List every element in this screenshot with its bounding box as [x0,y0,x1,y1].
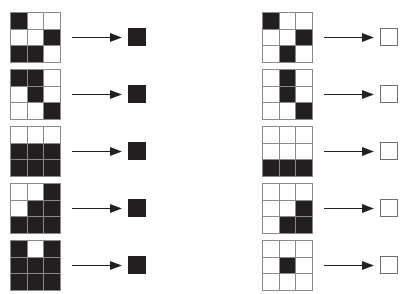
stimulus-grid[interactable] [10,183,61,234]
grid-cell-r3-c1[interactable] [263,217,279,233]
grid-cell-r2-c3[interactable] [44,144,60,160]
grid-cell-r3-c2[interactable] [28,274,44,290]
grid-cell-r1-c2[interactable] [28,127,44,143]
grid-cell-r2-c1[interactable] [263,30,279,46]
grid-cell-r3-c1[interactable] [11,103,27,119]
grid-cell-r1-c2[interactable] [280,127,296,143]
grid-cell-r1-c1[interactable] [11,127,27,143]
grid-cell-r3-c1[interactable] [11,274,27,290]
grid-cell-r1-c3[interactable] [296,127,312,143]
grid-cell-r3-c3[interactable] [44,103,60,119]
result-square-empty[interactable] [380,199,398,217]
grid-cell-r1-c2[interactable] [28,13,44,29]
grid-cell-r1-c3[interactable] [44,70,60,86]
grid-cell-r3-c1[interactable] [263,160,279,176]
grid-cell-r1-c2[interactable] [280,184,296,200]
grid-cell-r2-c1[interactable] [11,30,27,46]
grid-cell-r2-c1[interactable] [11,258,27,274]
grid-cell-r3-c1[interactable] [263,46,279,62]
grid-cell-r2-c2[interactable] [280,87,296,103]
grid-cell-r1-c2[interactable] [280,70,296,86]
grid-cell-r3-c2[interactable] [280,274,296,290]
grid-cell-r2-c1[interactable] [263,87,279,103]
grid-cell-r3-c1[interactable] [11,160,27,176]
grid-cell-r2-c3[interactable] [296,144,312,160]
grid-cell-r1-c2[interactable] [28,241,44,257]
grid-cell-r1-c3[interactable] [44,127,60,143]
stimulus-grid[interactable] [10,126,61,177]
stimulus-grid[interactable] [262,240,313,291]
grid-cell-r2-c2[interactable] [28,201,44,217]
result-square-empty[interactable] [380,28,398,46]
grid-cell-r3-c3[interactable] [44,160,60,176]
grid-cell-r2-c2[interactable] [28,30,44,46]
grid-cell-r1-c3[interactable] [44,13,60,29]
grid-cell-r3-c2[interactable] [28,103,44,119]
grid-cell-r3-c2[interactable] [28,46,44,62]
grid-cell-r3-c2[interactable] [28,217,44,233]
grid-cell-r2-c3[interactable] [296,87,312,103]
stimulus-grid[interactable] [262,69,313,120]
grid-cell-r1-c3[interactable] [296,184,312,200]
grid-cell-r3-c2[interactable] [280,46,296,62]
grid-cell-r2-c3[interactable] [44,87,60,103]
grid-cell-r1-c1[interactable] [11,70,27,86]
grid-cell-r2-c2[interactable] [28,258,44,274]
result-square-empty[interactable] [380,142,398,160]
result-square-empty[interactable] [380,256,398,274]
grid-cell-r2-c1[interactable] [263,144,279,160]
result-square-filled[interactable] [128,256,146,274]
stimulus-grid[interactable] [10,12,61,63]
grid-cell-r1-c2[interactable] [28,70,44,86]
stimulus-grid[interactable] [10,240,61,291]
grid-cell-r1-c1[interactable] [263,184,279,200]
stimulus-grid[interactable] [10,69,61,120]
grid-cell-r2-c3[interactable] [44,201,60,217]
grid-cell-r1-c3[interactable] [296,70,312,86]
grid-cell-r2-c3[interactable] [44,30,60,46]
grid-cell-r2-c2[interactable] [280,201,296,217]
grid-cell-r2-c1[interactable] [263,258,279,274]
grid-cell-r1-c3[interactable] [44,184,60,200]
result-square-filled[interactable] [128,85,146,103]
grid-cell-r3-c3[interactable] [296,46,312,62]
grid-cell-r1-c1[interactable] [263,70,279,86]
grid-cell-r3-c3[interactable] [296,274,312,290]
grid-cell-r1-c3[interactable] [296,241,312,257]
result-square-filled[interactable] [128,28,146,46]
grid-cell-r3-c3[interactable] [296,160,312,176]
stimulus-grid[interactable] [262,183,313,234]
grid-cell-r2-c1[interactable] [263,201,279,217]
grid-cell-r3-c3[interactable] [44,46,60,62]
grid-cell-r3-c3[interactable] [296,103,312,119]
grid-cell-r3-c1[interactable] [11,46,27,62]
grid-cell-r1-c1[interactable] [263,127,279,143]
grid-cell-r2-c3[interactable] [296,258,312,274]
result-square-filled[interactable] [128,142,146,160]
grid-cell-r2-c3[interactable] [44,258,60,274]
grid-cell-r2-c1[interactable] [11,201,27,217]
grid-cell-r1-c3[interactable] [44,241,60,257]
grid-cell-r2-c3[interactable] [296,30,312,46]
grid-cell-r3-c1[interactable] [263,274,279,290]
result-square-empty[interactable] [380,85,398,103]
grid-cell-r3-c2[interactable] [280,103,296,119]
grid-cell-r2-c3[interactable] [296,201,312,217]
grid-cell-r1-c1[interactable] [263,13,279,29]
grid-cell-r3-c1[interactable] [263,103,279,119]
grid-cell-r2-c1[interactable] [11,87,27,103]
grid-cell-r1-c1[interactable] [263,241,279,257]
grid-cell-r2-c2[interactable] [280,144,296,160]
grid-cell-r1-c1[interactable] [11,241,27,257]
grid-cell-r1-c1[interactable] [11,13,27,29]
grid-cell-r3-c1[interactable] [11,217,27,233]
grid-cell-r1-c2[interactable] [280,241,296,257]
grid-cell-r2-c2[interactable] [28,87,44,103]
grid-cell-r3-c3[interactable] [44,274,60,290]
grid-cell-r1-c3[interactable] [296,13,312,29]
grid-cell-r2-c2[interactable] [280,258,296,274]
grid-cell-r3-c3[interactable] [296,217,312,233]
grid-cell-r2-c2[interactable] [28,144,44,160]
grid-cell-r1-c2[interactable] [280,13,296,29]
grid-cell-r3-c2[interactable] [28,160,44,176]
